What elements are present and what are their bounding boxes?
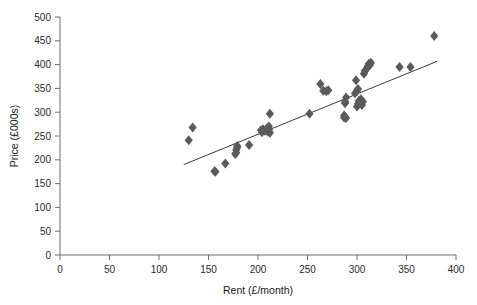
data-point: [221, 159, 229, 169]
axis-lines: [60, 17, 456, 255]
x-tick-label: 200: [250, 264, 267, 275]
x-axis-ticks: [60, 255, 456, 260]
x-tick-label: 50: [104, 264, 116, 275]
data-point: [266, 109, 274, 119]
y-axis-tick-labels: 050100150200250300350400450500: [34, 12, 51, 261]
y-tick-label: 50: [40, 226, 52, 237]
x-tick-label: 100: [151, 264, 168, 275]
data-point: [189, 122, 197, 132]
y-tick-label: 150: [34, 178, 51, 189]
data-point: [352, 75, 360, 85]
x-tick-label: 400: [448, 264, 465, 275]
x-axis-tick-labels: 050100150200250300350400: [57, 264, 465, 275]
y-axis-title: Price (£000s): [8, 105, 20, 167]
y-tick-label: 300: [34, 107, 51, 118]
y-tick-label: 200: [34, 154, 51, 165]
x-tick-label: 350: [398, 264, 415, 275]
data-points: [185, 31, 439, 177]
y-tick-label: 400: [34, 59, 51, 70]
y-tick-label: 250: [34, 131, 51, 142]
data-point: [185, 135, 193, 145]
data-point: [245, 140, 253, 150]
data-point: [430, 31, 438, 41]
y-tick-label: 450: [34, 35, 51, 46]
y-tick-label: 0: [45, 250, 51, 261]
scatter-chart: 050100150200250300350400450500 050100150…: [0, 0, 477, 305]
x-tick-label: 250: [299, 264, 316, 275]
x-tick-label: 300: [349, 264, 366, 275]
data-point: [211, 167, 219, 177]
x-tick-label: 150: [200, 264, 217, 275]
y-tick-label: 100: [34, 202, 51, 213]
data-point: [395, 62, 403, 72]
y-tick-label: 350: [34, 83, 51, 94]
x-tick-label: 0: [57, 264, 63, 275]
y-axis-ticks: [55, 17, 60, 255]
plot-canvas: 050100150200250300350400450500 050100150…: [0, 0, 477, 305]
y-tick-label: 500: [34, 12, 51, 23]
x-axis-title: Rent (£/month): [223, 284, 293, 296]
data-point: [305, 109, 313, 119]
